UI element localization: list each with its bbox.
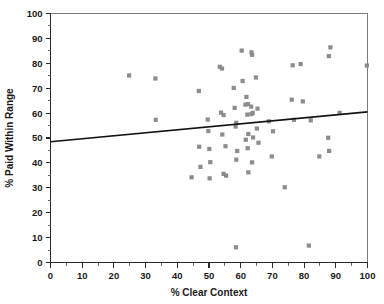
- trend-line: [51, 112, 368, 142]
- data-point: [220, 132, 224, 136]
- data-point: [271, 129, 275, 133]
- data-point: [127, 73, 131, 77]
- x-tick-label-70: 70: [267, 270, 278, 281]
- data-point: [250, 160, 254, 164]
- x-tick-label-30: 30: [140, 270, 151, 281]
- data-point: [291, 63, 295, 67]
- data-point: [246, 170, 250, 174]
- data-point: [241, 79, 245, 83]
- scatter-chart: 0102030405060708090100010203040506070809…: [0, 0, 384, 304]
- x-tick-label-60: 60: [235, 270, 246, 281]
- x-tick-label-20: 20: [109, 270, 120, 281]
- data-point: [189, 175, 193, 179]
- data-point: [327, 54, 331, 58]
- data-point: [220, 66, 224, 70]
- x-tick-label-0: 0: [48, 270, 53, 281]
- data-point: [224, 174, 228, 178]
- data-point: [206, 117, 210, 121]
- data-point: [153, 76, 157, 80]
- y-tick-label-90: 90: [32, 33, 43, 44]
- x-tick-label-10: 10: [77, 270, 88, 281]
- data-point: [207, 147, 211, 151]
- y-tick-label-50: 50: [32, 132, 43, 143]
- data-point: [198, 165, 202, 169]
- data-point: [208, 176, 212, 180]
- data-point: [244, 138, 248, 142]
- data-point: [299, 62, 303, 66]
- data-point: [233, 106, 237, 110]
- data-point: [249, 105, 253, 109]
- data-point: [250, 53, 254, 57]
- data-point: [234, 158, 238, 162]
- data-point: [309, 118, 313, 122]
- data-point: [326, 136, 330, 140]
- data-point: [232, 86, 236, 90]
- y-tick-label-0: 0: [37, 257, 42, 268]
- data-point: [255, 107, 259, 111]
- data-point: [245, 112, 249, 116]
- y-tick-label-100: 100: [27, 8, 43, 19]
- data-point: [234, 245, 238, 249]
- y-tick-label-10: 10: [32, 232, 43, 243]
- data-point: [223, 144, 227, 148]
- data-point: [208, 160, 212, 164]
- plot-svg: 0102030405060708090100010203040506070809…: [0, 0, 384, 304]
- data-point: [246, 146, 250, 150]
- y-tick-label-40: 40: [32, 157, 43, 168]
- data-point: [221, 113, 225, 117]
- x-tick-label-50: 50: [204, 270, 215, 281]
- data-point: [256, 141, 260, 145]
- data-point: [301, 99, 305, 103]
- x-tick-label-100: 100: [360, 270, 376, 281]
- y-tick-label-60: 60: [32, 108, 43, 119]
- data-point: [290, 98, 294, 102]
- data-point: [254, 75, 258, 79]
- data-point: [235, 149, 239, 153]
- data-point: [206, 129, 210, 133]
- x-tick-label-40: 40: [172, 270, 183, 281]
- x-tick-label-90: 90: [331, 270, 342, 281]
- y-tick-label-80: 80: [32, 58, 43, 69]
- data-point: [317, 154, 321, 158]
- data-point: [283, 185, 287, 189]
- data-point: [327, 149, 331, 153]
- data-point: [328, 45, 332, 49]
- x-axis-title: % Clear Context: [171, 287, 248, 298]
- y-tick-label-70: 70: [32, 83, 43, 94]
- data-point: [255, 126, 259, 130]
- y-tick-label-20: 20: [32, 207, 43, 218]
- data-point: [307, 243, 311, 247]
- data-point: [246, 132, 250, 136]
- data-point: [154, 118, 158, 122]
- y-axis-title: % Paid Within Range: [4, 88, 15, 188]
- data-point: [197, 145, 201, 149]
- data-point: [270, 154, 274, 158]
- data-point: [251, 135, 255, 139]
- data-point: [244, 95, 248, 99]
- data-point: [249, 112, 253, 116]
- x-tick-label-80: 80: [299, 270, 310, 281]
- y-tick-label-30: 30: [32, 182, 43, 193]
- data-point: [365, 63, 369, 67]
- data-point: [240, 49, 244, 53]
- data-point: [197, 89, 201, 93]
